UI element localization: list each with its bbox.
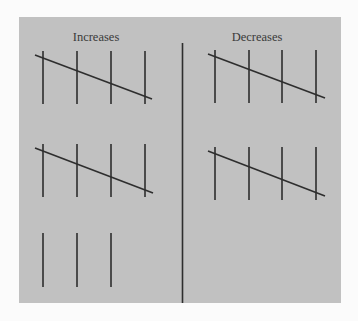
tally-group-left-2 [35, 144, 153, 197]
slash-line [35, 148, 153, 193]
slash-line [208, 151, 325, 196]
tally-group-left-3 [43, 233, 111, 287]
tally-group-right-2 [208, 147, 325, 200]
slash-line [208, 54, 325, 98]
tally-group-left-1 [35, 51, 152, 104]
tally-diagram [0, 0, 358, 321]
tally-group-right-1 [208, 50, 325, 103]
slash-line [35, 55, 152, 99]
